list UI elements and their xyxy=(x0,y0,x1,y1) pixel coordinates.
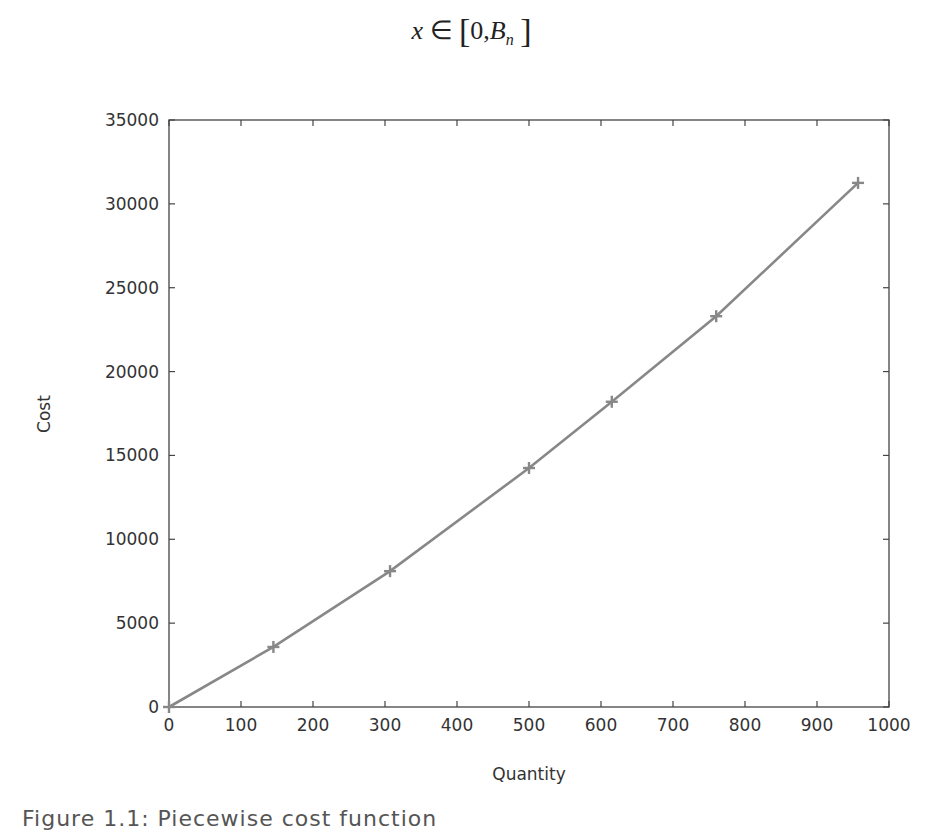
x-tick-label: 100 xyxy=(225,715,257,735)
x-tick-label: 300 xyxy=(369,715,401,735)
plot-frame xyxy=(169,120,889,707)
x-tick-label: 200 xyxy=(297,715,329,735)
x-tick-label: 800 xyxy=(729,715,761,735)
y-tick-label: 5000 xyxy=(116,613,159,633)
figure-caption: Figure 1.1: Piecewise cost function xyxy=(22,806,437,831)
plot-border xyxy=(169,120,889,707)
y-tick-label: 20000 xyxy=(105,362,159,382)
y-axis-title: Cost xyxy=(34,395,54,433)
x-tick-label: 500 xyxy=(513,715,545,735)
x-tick-label: 400 xyxy=(441,715,473,735)
data-series xyxy=(163,177,864,713)
x-axis-ticks: 01002003004005006007008009001000 xyxy=(164,120,911,735)
y-tick-label: 10000 xyxy=(105,529,159,549)
x-axis-title: Quantity xyxy=(492,764,565,784)
series-line xyxy=(169,183,858,707)
plus-marker-icon xyxy=(163,701,175,713)
x-tick-label: 700 xyxy=(657,715,689,735)
y-tick-label: 30000 xyxy=(105,194,159,214)
y-tick-label: 0 xyxy=(148,697,159,717)
y-tick-label: 15000 xyxy=(105,445,159,465)
cost-chart: 01002003004005006007008009001000 0500010… xyxy=(0,0,943,800)
x-tick-label: 900 xyxy=(801,715,833,735)
y-tick-label: 35000 xyxy=(105,110,159,130)
x-tick-label: 600 xyxy=(585,715,617,735)
y-tick-label: 25000 xyxy=(105,278,159,298)
x-tick-label: 0 xyxy=(164,715,175,735)
y-axis-ticks: 05000100001500020000250003000035000 xyxy=(105,110,889,717)
x-tick-label: 1000 xyxy=(867,715,910,735)
